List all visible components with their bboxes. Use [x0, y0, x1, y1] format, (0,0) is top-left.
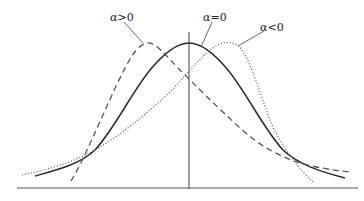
curve-alpha-negative [22, 42, 313, 182]
curve-alpha-zero [35, 43, 345, 178]
label-alpha-negative: α<0 [260, 22, 284, 33]
curve-alpha-positive [71, 43, 350, 181]
label-alpha-positive: α>0 [110, 12, 134, 23]
leader-line-alpha-positive [124, 22, 143, 43]
label-alpha-positive-rel: >0 [117, 11, 133, 24]
label-alpha-zero-rel: =0 [210, 11, 226, 24]
skewness-diagram [0, 0, 364, 201]
label-alpha-zero: α=0 [203, 12, 227, 23]
leader-line-alpha-zero [201, 22, 212, 47]
label-alpha-negative-rel: <0 [267, 21, 283, 34]
